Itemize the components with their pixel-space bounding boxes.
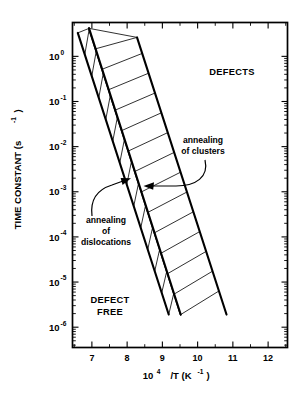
clusters-label-line2: of clusters (181, 146, 225, 156)
x-axis-title-tail: ) (206, 370, 209, 381)
y-axis-tick-labels: 10010-110-210-310-410-510-6 (49, 49, 67, 333)
y-tick-label-base: 10 (49, 51, 60, 62)
y-axis-title: TIME CONSTANT (s -1 ) (10, 109, 23, 229)
x-axis-title: 10 4 /T (K -1 ) (143, 368, 210, 381)
y-tick-label-base: 10 (49, 96, 60, 107)
y-tick-label-base: 10 (49, 186, 60, 197)
dislocations-label-line3: dislocations (81, 237, 131, 247)
defect-free-region-label-line1: DEFECT (91, 295, 130, 305)
x-tick-label: 12 (263, 353, 273, 363)
defect-free-region-label-line2: FREE (97, 307, 123, 317)
y-tick-label-base: 10 (49, 141, 60, 152)
x-axis-title-base: 10 (143, 370, 154, 381)
y-tick-label-base: 10 (49, 232, 60, 243)
y-tick-label-base: 10 (49, 277, 60, 288)
y-axis-title-base: TIME CONSTANT (s (12, 141, 23, 230)
y-tick-label-exponent: -6 (61, 320, 67, 327)
x-tick-label: 8 (125, 353, 130, 363)
arrhenius-plot: 789101112 10010-110-210-310-410-510-6 10… (0, 0, 305, 397)
y-tick-label-exponent: -3 (61, 184, 67, 191)
y-tick-label-exponent: -2 (61, 139, 67, 146)
y-tick-label-exponent: -4 (61, 229, 67, 236)
dislocations-label-line2: of (102, 226, 110, 236)
figure-container: 789101112 10010-110-210-310-410-510-6 10… (0, 0, 305, 397)
y-tick-label-exponent: -5 (61, 274, 67, 281)
x-axis-title-mid: /T (K (170, 370, 191, 381)
y-tick-label-base: 10 (49, 322, 60, 333)
clusters-label-line1: annealing (183, 135, 223, 145)
y-axis-title-tail: ) (12, 109, 23, 112)
x-tick-label: 7 (89, 353, 94, 363)
x-axis-title-sup1: 4 (157, 368, 161, 375)
y-tick-label-exponent: 0 (61, 49, 65, 56)
x-tick-label: 9 (160, 353, 165, 363)
x-axis-title-sup2: -1 (198, 368, 204, 375)
dislocations-label-line1: annealing (86, 215, 126, 225)
x-tick-label: 11 (228, 353, 238, 363)
x-tick-label: 10 (193, 353, 203, 363)
y-axis-title-sup: -1 (10, 117, 17, 123)
x-axis-tick-labels: 789101112 (89, 353, 273, 363)
y-tick-label-exponent: -1 (61, 94, 67, 101)
defects-region-label: DEFECTS (209, 67, 255, 77)
